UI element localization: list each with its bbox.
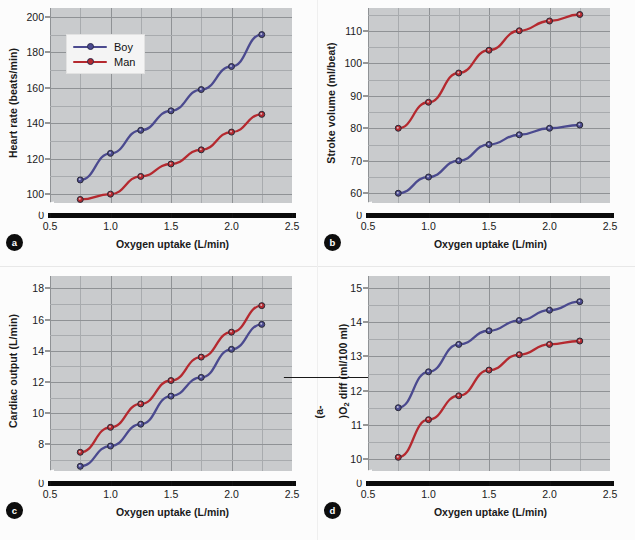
data-point-highlight: [139, 129, 141, 131]
panel-badge-c: c: [6, 502, 23, 519]
y-tick-label: 13: [350, 350, 362, 362]
data-point-highlight: [457, 159, 459, 161]
x-axis-label: Oxygen uptake (L/min): [40, 506, 305, 518]
legend-swatch: [73, 41, 107, 52]
x-tick-label: 2.0: [542, 488, 557, 500]
y-tick-label: 10: [32, 407, 44, 419]
series-line-man: [80, 114, 262, 199]
legend-label: Man: [114, 56, 135, 68]
x-axis-label: Oxygen uptake (L/min): [358, 238, 623, 250]
data-point-highlight: [170, 162, 172, 164]
y-axis-break-mark: [40, 202, 54, 213]
y-axis-break-mark: [358, 470, 372, 481]
panel-badge-a: a: [6, 234, 23, 251]
y-axis-ticks: 0101112131415: [336, 268, 368, 478]
data-point-highlight: [548, 343, 550, 345]
figure-sheet: Heart rate (beats/min)010012014016018020…: [0, 0, 635, 540]
panel-c: Cardiac output (L/min)0810121416180.51.0…: [0, 268, 317, 538]
panel-b: Stroke volume (ml/beat)0607080901001100.…: [318, 0, 635, 270]
data-point-highlight: [578, 123, 580, 125]
data-point-highlight: [578, 300, 580, 302]
x-tick-mark: [111, 481, 112, 486]
data-point-highlight: [109, 193, 111, 195]
legend-item: Man: [73, 54, 135, 69]
data-point-highlight: [488, 49, 490, 51]
x-tick-mark: [111, 213, 112, 218]
data-point-highlight: [488, 368, 490, 370]
y-tick-label: 15: [350, 282, 362, 294]
x-tick-label: 1.0: [421, 488, 436, 500]
x-tick-mark: [550, 213, 551, 218]
data-point-highlight: [109, 426, 111, 428]
data-point-highlight: [260, 33, 262, 35]
data-point-highlight: [170, 109, 172, 111]
y-tick-label: 16: [32, 314, 44, 326]
data-point-highlight: [230, 348, 232, 350]
x-tick-label: 1.5: [164, 488, 179, 500]
data-point-highlight: [170, 395, 172, 397]
data-point-highlight: [397, 127, 399, 129]
x-axis-label: Oxygen uptake (L/min): [40, 238, 305, 250]
legend-label: Boy: [114, 41, 133, 53]
plot-area: [368, 8, 610, 203]
y-tick-label: 14: [350, 316, 362, 328]
data-point-highlight: [79, 178, 81, 180]
x-tick-label: 0.5: [361, 220, 376, 232]
x-tick-mark: [292, 213, 293, 218]
x-tick-mark: [550, 481, 551, 486]
data-point-highlight: [79, 451, 81, 453]
legend-item: Boy: [73, 39, 135, 54]
x-axis-ticks: 0.51.01.52.02.5: [318, 218, 635, 234]
plot-area: [50, 276, 292, 471]
data-point-highlight: [139, 175, 141, 177]
data-point-highlight: [200, 148, 202, 150]
y-tick-label: 100: [26, 188, 44, 200]
x-tick-label: 2.0: [542, 220, 557, 232]
series-layer: [50, 276, 292, 471]
y-tick-label: 8: [38, 438, 44, 450]
y-tick-label: 180: [26, 46, 44, 58]
data-point-highlight: [427, 101, 429, 103]
x-tick-label: 1.0: [103, 220, 118, 232]
x-tick-label: 2.5: [603, 488, 618, 500]
x-tick-label: 1.5: [482, 488, 497, 500]
x-tick-mark: [368, 481, 369, 486]
data-point-highlight: [397, 406, 399, 408]
data-point-highlight: [230, 130, 232, 132]
y-tick-label: 14: [32, 345, 44, 357]
y-tick-label: 100: [344, 57, 362, 69]
x-tick-mark: [429, 213, 430, 218]
x-tick-label: 1.0: [103, 488, 118, 500]
x-tick-mark: [489, 213, 490, 218]
panel-a: Heart rate (beats/min)010012014016018020…: [0, 0, 317, 270]
x-tick-label: 2.0: [224, 488, 239, 500]
x-tick-mark: [292, 481, 293, 486]
x-tick-label: 2.0: [224, 220, 239, 232]
y-axis-ticks: 060708090100110: [336, 0, 368, 210]
data-point-highlight: [518, 353, 520, 355]
data-point-highlight: [548, 127, 550, 129]
data-point-highlight: [548, 309, 550, 311]
y-tick-label: 18: [32, 282, 44, 294]
data-point-highlight: [578, 13, 580, 15]
x-tick-label: 2.5: [285, 220, 300, 232]
x-axis-ticks: 0.51.01.52.02.5: [318, 486, 635, 502]
panel-badge-d: d: [324, 502, 341, 519]
y-axis-break-mark: [358, 202, 372, 213]
x-tick-mark: [610, 213, 611, 218]
x-axis-ticks: 0.51.01.52.02.5: [0, 486, 317, 502]
x-tick-label: 0.5: [43, 220, 58, 232]
data-point-highlight: [200, 376, 202, 378]
x-tick-label: 1.0: [421, 220, 436, 232]
data-point-highlight: [518, 29, 520, 31]
data-point-highlight: [79, 198, 81, 200]
legend-swatch: [73, 56, 107, 67]
data-point-highlight: [79, 465, 81, 467]
y-tick-label: 110: [345, 25, 362, 37]
data-point-highlight: [457, 71, 459, 73]
series-layer: [368, 276, 610, 471]
x-tick-mark: [429, 481, 430, 486]
data-point-highlight: [200, 88, 202, 90]
y-axis-ticks: 0100120140160180200: [18, 0, 50, 210]
y-tick-label: 80: [350, 122, 362, 134]
